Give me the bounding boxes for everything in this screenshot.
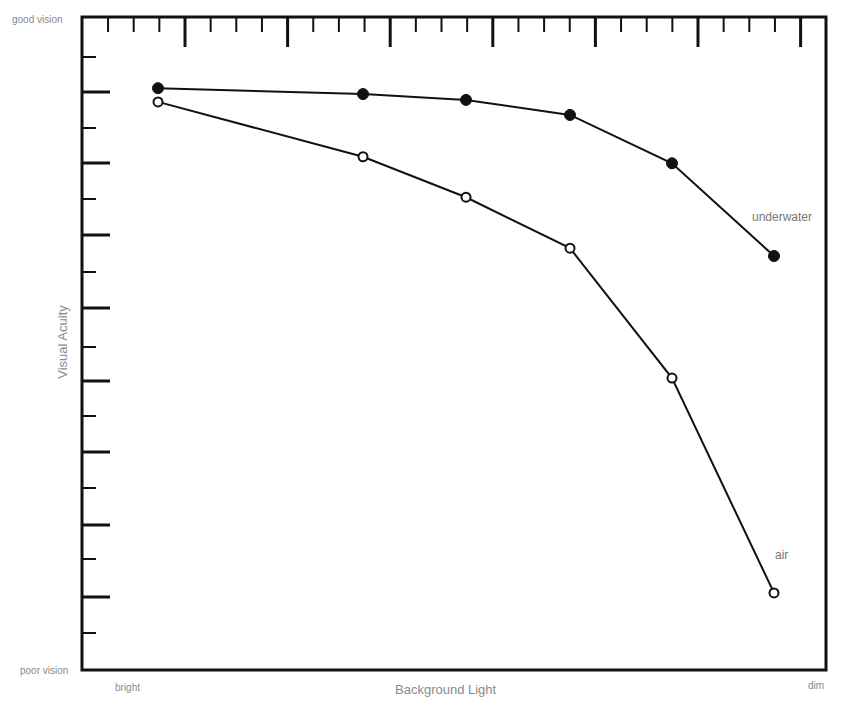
y-axis-title: Visual Acuity bbox=[55, 305, 70, 378]
underwater-data-point bbox=[461, 94, 472, 105]
air-data-point bbox=[154, 97, 163, 106]
x-axis-title: Background Light bbox=[395, 682, 496, 697]
underwater-data-point bbox=[153, 83, 164, 94]
air-data-point bbox=[668, 374, 677, 383]
y-axis-bottom-label: poor vision bbox=[20, 665, 68, 676]
series-label-air: air bbox=[775, 548, 788, 562]
x-axis-end-label: dim bbox=[808, 680, 824, 691]
left-axis-ticks bbox=[82, 57, 110, 633]
x-axis-start-label: bright bbox=[115, 682, 140, 693]
series-label-underwater: underwater bbox=[752, 210, 812, 224]
underwater-data-point bbox=[667, 158, 678, 169]
air-data-point bbox=[462, 193, 471, 202]
air-data-point bbox=[566, 244, 575, 253]
underwater-data-point bbox=[769, 250, 780, 261]
line-chart bbox=[0, 0, 845, 716]
y-axis-top-label: good vision bbox=[12, 14, 63, 25]
air-data-point bbox=[770, 588, 779, 597]
top-axis-ticks bbox=[108, 17, 801, 47]
data-series bbox=[153, 83, 780, 598]
air-data-point bbox=[359, 152, 368, 161]
plot-frame bbox=[82, 17, 826, 670]
underwater-data-point bbox=[358, 89, 369, 100]
underwater-data-point bbox=[565, 109, 576, 120]
